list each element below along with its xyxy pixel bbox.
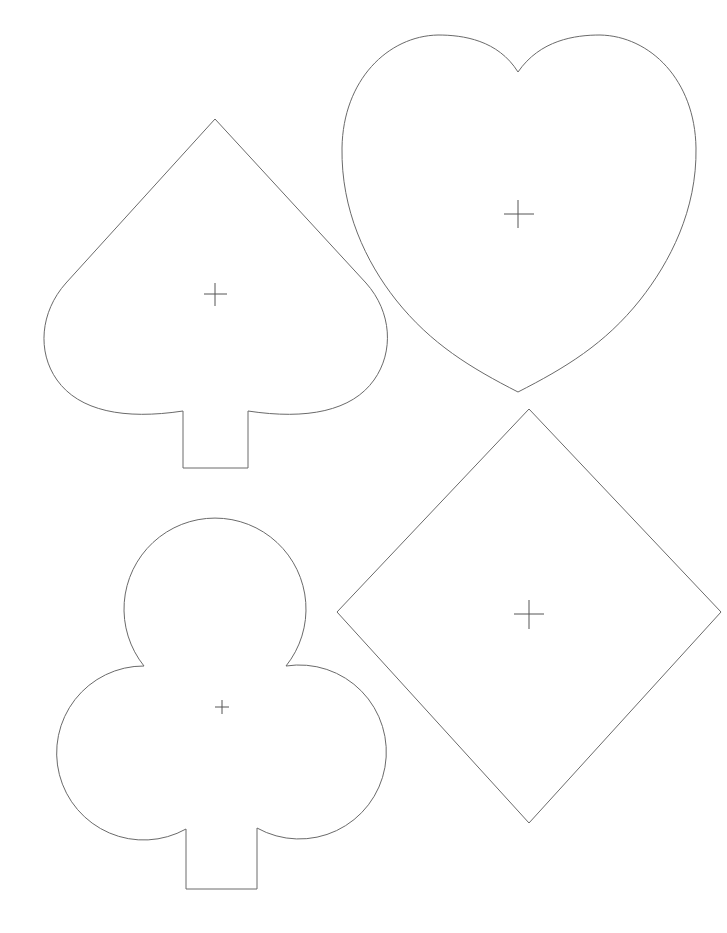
diamond-crosshair — [514, 600, 544, 629]
spade-crosshair — [204, 283, 227, 306]
spade-shape — [44, 119, 387, 468]
heart-shape — [342, 35, 696, 392]
club-crosshair — [215, 700, 229, 714]
heart-crosshair — [504, 200, 534, 228]
suit-template-canvas — [0, 0, 727, 933]
club-icon — [57, 518, 387, 889]
club-shape — [57, 518, 387, 889]
diamond-shape — [337, 409, 721, 823]
